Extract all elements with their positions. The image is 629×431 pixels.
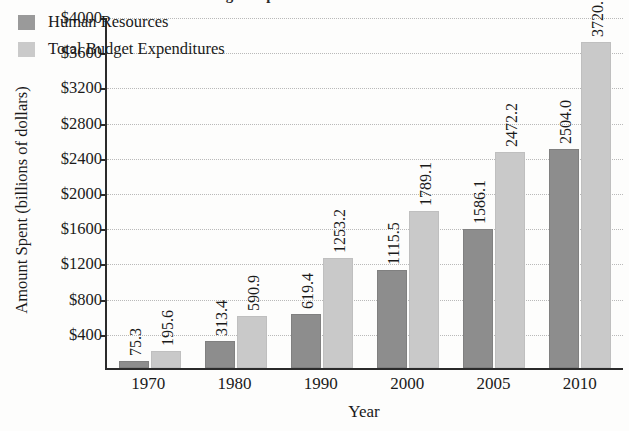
bar-value-label: 1115.5 [386, 223, 402, 266]
y-axis-tick-mark [100, 300, 107, 302]
legend-item[interactable]: Human Resources [18, 12, 225, 32]
bar-group: 313.4590.9 [193, 18, 279, 368]
y-axis-tick-mark [100, 229, 107, 231]
x-axis-tick-labels: 197019801990200020052010 [105, 374, 623, 400]
bar-value-label: 2472.2 [504, 103, 520, 147]
y-axis-tick-mark [100, 264, 107, 266]
bar-value-label: 3720.7 [590, 0, 606, 37]
legend-label: Total Budget Expenditures [48, 39, 225, 59]
bar[interactable]: 1115.5 [377, 270, 407, 368]
x-axis-tick-label: 2000 [364, 374, 450, 400]
bar[interactable]: 2504.0 [549, 149, 579, 368]
bar-value-label: 1586.1 [472, 180, 488, 224]
y-axis-tick-label: $2800 [24, 115, 102, 132]
bar[interactable]: 313.4 [205, 341, 235, 368]
bar[interactable]: 75.3 [119, 361, 149, 368]
bar-value-label: 313.4 [214, 300, 230, 336]
x-axis-label: Year [105, 402, 623, 422]
bar[interactable]: 195.6 [151, 351, 181, 368]
bar-value-label: 195.6 [160, 310, 176, 346]
legend-swatch-icon [18, 42, 35, 57]
x-axis-tick-label: 2005 [450, 374, 536, 400]
y-axis-tick-mark [100, 194, 107, 196]
bar-group: 75.3195.6 [107, 18, 193, 368]
bar[interactable]: 619.4 [291, 314, 321, 368]
y-axis-tick-label: $800 [24, 291, 102, 308]
y-axis-tick-mark [100, 88, 107, 90]
y-axis-tick-label: $3200 [24, 80, 102, 97]
x-axis-tick-label: 2010 [537, 374, 623, 400]
bar-group: 1586.12472.2 [451, 18, 537, 368]
x-axis-tick-label: 1980 [191, 374, 277, 400]
bar-group: 1115.51789.1 [365, 18, 451, 368]
bar-value-label: 619.4 [300, 273, 316, 309]
bar[interactable]: 1586.1 [463, 229, 493, 368]
legend-swatch-icon [18, 15, 35, 30]
legend-item[interactable]: Total Budget Expenditures [18, 39, 225, 59]
y-axis-tick-mark [100, 335, 107, 337]
y-axis-tick-label: $2000 [24, 186, 102, 203]
bar-group: 619.41253.2 [279, 18, 365, 368]
y-axis-tick-label: $1600 [24, 221, 102, 238]
legend-label: Human Resources [48, 12, 169, 32]
bar-group: 2504.03720.7 [537, 18, 623, 368]
x-axis-tick-label: 1970 [105, 374, 191, 400]
bar-value-label: 590.9 [246, 275, 262, 311]
bar-value-label: 1253.2 [332, 209, 348, 253]
bar[interactable]: 2472.2 [495, 152, 525, 368]
bar-chart-figure: Federal Budget Expenditures and Human Re… [0, 0, 629, 431]
y-axis-tick-label: $2400 [24, 151, 102, 168]
y-axis-tick-labels: $400$800$1200$1600$2000$2400$2800$3200$3… [24, 18, 102, 370]
chart-legend: Human ResourcesTotal Budget Expenditures [18, 12, 225, 66]
bar[interactable]: 590.9 [237, 316, 267, 368]
bar-value-label: 2504.0 [558, 100, 574, 144]
bar[interactable]: 1789.1 [409, 211, 439, 368]
bar-value-label: 75.3 [128, 328, 144, 356]
y-axis-tick-mark [100, 159, 107, 161]
bar[interactable]: 1253.2 [323, 258, 353, 368]
bar-value-label: 1789.1 [418, 162, 434, 206]
bar[interactable]: 3720.7 [581, 42, 611, 368]
chart-title: Federal Budget Expenditures and Human Re… [0, 0, 629, 3]
y-axis-tick-label: $1200 [24, 256, 102, 273]
x-axis-tick-label: 1990 [278, 374, 364, 400]
y-axis-tick-mark [100, 124, 107, 126]
bar-groups: 75.3195.6313.4590.9619.41253.21115.51789… [107, 18, 623, 368]
plot-area: 75.3195.6313.4590.9619.41253.21115.51789… [105, 18, 623, 370]
y-axis-tick-label: $400 [24, 327, 102, 344]
